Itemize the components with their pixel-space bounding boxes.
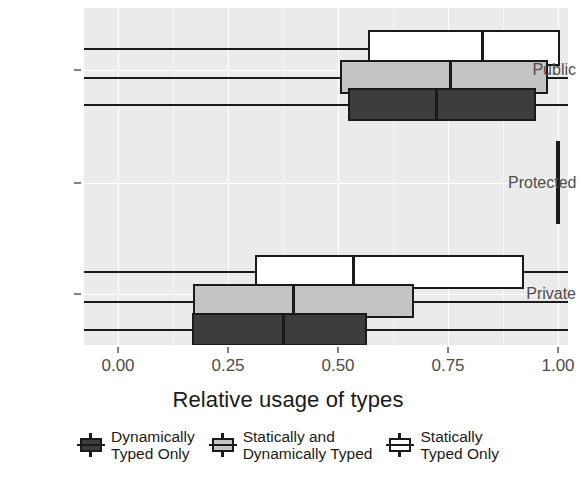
whisker-private-statically-and-dynamically-typed-left bbox=[84, 301, 193, 303]
x-axis-label-0.00: 0.00 bbox=[82, 356, 154, 376]
legend-label-line1: Statically bbox=[420, 428, 498, 445]
whisker-private-statically-typed-only-right bbox=[524, 271, 568, 273]
box-public-dynamically-typed-only bbox=[348, 88, 536, 121]
y-tick-protected bbox=[74, 182, 81, 184]
whisker-private-dynamically-typed-only-left bbox=[84, 329, 192, 331]
y-axis-label-private: Private bbox=[508, 285, 576, 303]
legend-label-line2: Typed Only bbox=[420, 445, 498, 462]
legend-label-line1: Statically and bbox=[243, 428, 373, 445]
legend-label-statically-and-dynamically-typed: Statically and Dynamically Typed bbox=[243, 428, 373, 463]
x-axis-label-0.25: 0.25 bbox=[192, 356, 264, 376]
x-axis-title: Relative usage of types bbox=[0, 387, 576, 413]
legend-label-dynamically-typed-only: Dynamically Typed Only bbox=[111, 428, 195, 463]
legend-item-statically-typed-only[interactable]: Statically Typed Only bbox=[386, 428, 498, 463]
whisker-public-dynamically-typed-only-right bbox=[536, 104, 568, 106]
legend-label-line2: Typed Only bbox=[111, 445, 195, 462]
plot-panel bbox=[84, 8, 568, 345]
whisker-public-statically-and-dynamically-typed-left bbox=[84, 77, 340, 79]
gridline-y-protected bbox=[84, 183, 568, 184]
x-axis-label-0.75: 0.75 bbox=[412, 356, 484, 376]
whisker-public-statically-typed-only bbox=[84, 48, 368, 50]
median-private-dynamically-typed-only bbox=[282, 313, 285, 345]
y-tick-public bbox=[74, 69, 81, 71]
whisker-private-dynamically-typed-only-right bbox=[367, 329, 568, 331]
legend-label-line2: Dynamically Typed bbox=[243, 445, 373, 462]
x-axis-label-0.50: 0.50 bbox=[302, 356, 374, 376]
x-tick-1.00 bbox=[557, 347, 559, 353]
legend-item-statically-and-dynamically-typed[interactable]: Statically and Dynamically Typed bbox=[209, 428, 373, 463]
legend-key-statically-and-dynamically-typed-icon bbox=[209, 430, 237, 460]
legend-label-line1: Dynamically bbox=[111, 428, 195, 445]
legend-item-dynamically-typed-only[interactable]: Dynamically Typed Only bbox=[77, 428, 195, 463]
y-tick-private bbox=[74, 293, 81, 295]
x-tick-0.75 bbox=[447, 347, 449, 353]
legend: Dynamically Typed Only Statically and Dy… bbox=[0, 428, 576, 480]
legend-key-dynamically-typed-only-icon bbox=[77, 430, 105, 460]
whisker-private-statically-typed-only-left bbox=[84, 271, 255, 273]
x-tick-0.50 bbox=[337, 347, 339, 353]
legend-label-statically-typed-only: Statically Typed Only bbox=[420, 428, 498, 463]
median-public-dynamically-typed-only bbox=[435, 88, 438, 121]
box-private-dynamically-typed-only bbox=[192, 313, 367, 345]
x-tick-0.00 bbox=[117, 347, 119, 353]
legend-key-statically-typed-only-icon bbox=[386, 430, 414, 460]
y-axis-label-protected: Protected bbox=[508, 174, 576, 192]
x-tick-0.25 bbox=[227, 347, 229, 353]
whisker-public-dynamically-typed-only-left bbox=[84, 104, 348, 106]
x-axis-label-1.00: 1.00 bbox=[522, 356, 581, 376]
y-axis-label-public: Public bbox=[508, 61, 576, 79]
